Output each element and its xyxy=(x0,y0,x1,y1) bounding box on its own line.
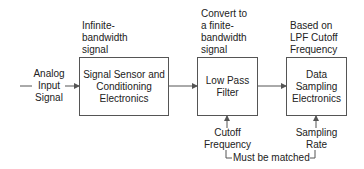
block3-annotation: Based on LPF Cutoff Frequency xyxy=(290,20,360,56)
input-signal-label: Analog Input Signal xyxy=(30,68,68,104)
must-be-matched-note: Must be matched xyxy=(233,152,313,164)
data-sampling-block: Data Sampling Electronics xyxy=(286,57,347,116)
signal-sensor-block: Signal Sensor and Conditioning Electroni… xyxy=(79,57,169,116)
cutoff-frequency-label: Cutoff Frequency xyxy=(197,127,258,151)
sampling-rate-label: Sampling Rate xyxy=(286,127,347,151)
block2-annotation: Convert to a finite- bandwidth signal xyxy=(201,8,261,56)
block1-annotation: Infinite- bandwidth signal xyxy=(82,20,162,56)
low-pass-filter-block: Low Pass Filter xyxy=(197,57,258,116)
